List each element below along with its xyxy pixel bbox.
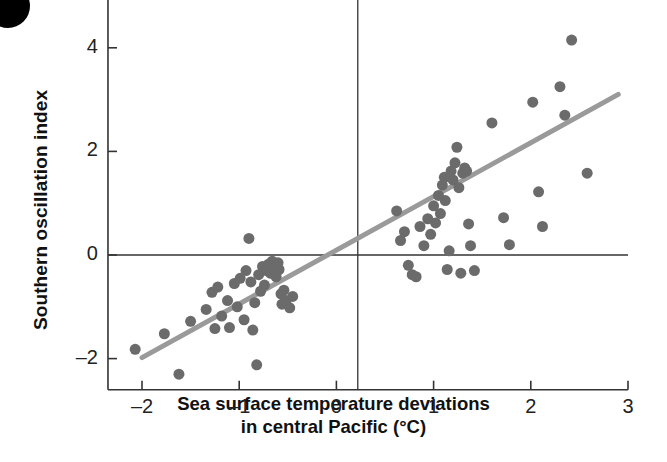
scatter-plot-figure: Southern oscillation index Sea surface t… xyxy=(0,0,667,462)
x-tick-label: –1 xyxy=(219,395,259,418)
x-tick-label: 1 xyxy=(414,395,454,418)
data-point xyxy=(247,325,258,336)
x-tick-label: 0 xyxy=(316,395,356,418)
data-point xyxy=(425,229,436,240)
data-point xyxy=(582,168,593,179)
data-point xyxy=(461,166,472,177)
data-point xyxy=(498,212,509,223)
data-point xyxy=(527,97,538,108)
data-point xyxy=(251,359,262,370)
data-point xyxy=(465,240,476,251)
data-point xyxy=(201,304,212,315)
data-point xyxy=(453,182,464,193)
data-point xyxy=(504,239,515,250)
data-point xyxy=(287,291,298,302)
data-point xyxy=(430,217,441,228)
data-point xyxy=(414,221,425,232)
data-point xyxy=(440,195,451,206)
data-point xyxy=(216,311,227,322)
data-point xyxy=(241,265,252,276)
y-tick-label: 4 xyxy=(64,35,98,58)
data-point xyxy=(249,297,260,308)
data-point xyxy=(455,268,466,279)
x-axis-title-line2: in central Pacific (°C) xyxy=(0,415,667,438)
data-point xyxy=(463,218,474,229)
y-tick-label: –2 xyxy=(64,346,98,369)
data-point xyxy=(469,265,480,276)
data-point xyxy=(411,271,422,282)
x-tick-label: 2 xyxy=(511,395,551,418)
data-point xyxy=(173,369,184,380)
y-tick-label: 0 xyxy=(64,242,98,265)
data-point xyxy=(449,157,460,168)
x-tick-label: 3 xyxy=(608,395,648,418)
data-point xyxy=(274,264,285,275)
y-tick-label: 2 xyxy=(64,138,98,161)
data-point xyxy=(212,282,223,293)
data-point xyxy=(451,142,462,153)
x-tick-label: –2 xyxy=(122,395,162,418)
data-point xyxy=(284,302,295,313)
data-point xyxy=(435,208,446,219)
data-point xyxy=(537,221,548,232)
data-point xyxy=(222,295,233,306)
data-point xyxy=(232,301,243,312)
y-axis-title: Southern oscillation index xyxy=(30,90,52,330)
data-point xyxy=(391,205,402,216)
data-point xyxy=(442,264,453,275)
data-point xyxy=(533,186,544,197)
data-point xyxy=(566,35,577,46)
data-point xyxy=(209,323,220,334)
data-point xyxy=(444,245,455,256)
data-point xyxy=(259,280,270,291)
data-point xyxy=(130,344,141,355)
data-point xyxy=(559,110,570,121)
data-point xyxy=(399,226,410,237)
data-point xyxy=(554,81,565,92)
data-point xyxy=(224,322,235,333)
data-point xyxy=(243,233,254,244)
data-point xyxy=(486,117,497,128)
data-point xyxy=(159,328,170,339)
data-point xyxy=(185,316,196,327)
data-point xyxy=(418,240,429,251)
data-point xyxy=(239,314,250,325)
